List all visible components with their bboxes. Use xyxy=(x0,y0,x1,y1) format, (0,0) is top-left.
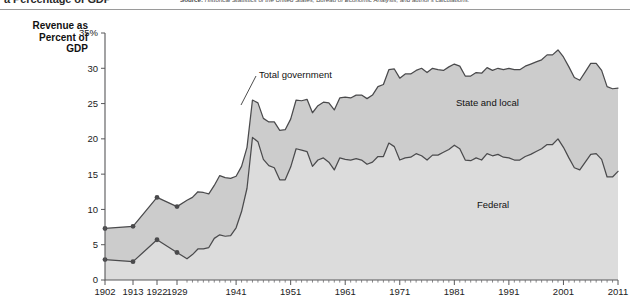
data-point-marker-federal-1913 xyxy=(131,259,136,264)
y-tick-label-20: 20 xyxy=(87,133,98,144)
data-point-marker-total-government-1913 xyxy=(131,224,136,229)
x-tick-label-1902: 1902 xyxy=(94,286,115,297)
data-point-marker-total-government-1929 xyxy=(175,204,180,209)
x-tick-label-1913: 1913 xyxy=(122,286,143,297)
data-point-marker-federal-1922 xyxy=(155,237,160,242)
x-tick-label-2011: 2011 xyxy=(608,286,628,297)
x-tick-label-1941: 1941 xyxy=(226,286,247,297)
x-tick-label-1929: 1929 xyxy=(166,286,187,297)
x-tick-label-1971: 1971 xyxy=(389,286,410,297)
y-tick-label-5: 5 xyxy=(93,239,98,250)
y-tick-label-30: 30 xyxy=(87,63,98,74)
chart-page: a Percentage of GDP Source: Historical S… xyxy=(0,0,630,298)
x-tick-label-1922: 1922 xyxy=(146,286,167,297)
y-tick-label-0: 0 xyxy=(93,274,98,285)
x-tick-label-1991: 1991 xyxy=(498,286,519,297)
data-point-marker-federal-1929 xyxy=(175,250,180,255)
annotation-state-and-local: State and local xyxy=(456,97,519,108)
y-tick-label-25: 25 xyxy=(87,98,98,109)
x-tick-label-1951: 1951 xyxy=(280,286,301,297)
data-point-marker-total-government-1922 xyxy=(155,195,160,200)
x-tick-label-2001: 2001 xyxy=(553,286,574,297)
y-tick-label-10: 10 xyxy=(87,204,98,215)
y-tick-label-15: 15 xyxy=(87,169,98,180)
annotation-federal: Federal xyxy=(477,199,509,210)
revenue-area-chart: 05101520253035%1902191319221929194119511… xyxy=(0,0,630,298)
plot-layer: 05101520253035%1902191319221929194119511… xyxy=(79,27,628,297)
x-tick-label-1981: 1981 xyxy=(444,286,465,297)
y-tick-label-35: 35% xyxy=(79,27,99,38)
x-tick-label-1961: 1961 xyxy=(335,286,356,297)
annotation-total-government: Total government xyxy=(259,69,332,80)
